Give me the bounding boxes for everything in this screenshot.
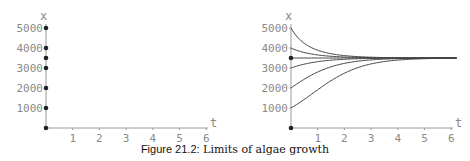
x-tick-label: 4000	[262, 42, 289, 55]
equilibrium-point	[289, 56, 294, 61]
solution-curve	[291, 58, 457, 88]
caption-label: Figure 21.2:	[141, 143, 200, 155]
t-axis-label: t	[210, 116, 217, 130]
solution-curve	[291, 58, 457, 108]
x-axis-label: x	[40, 9, 47, 23]
chart-solution-curves: 12345610002000300040005000tx	[262, 9, 463, 145]
initial-value-point	[44, 56, 49, 61]
x-axis-label: x	[285, 9, 292, 23]
initial-value-point	[44, 26, 49, 31]
x-tick-label: 4000	[17, 42, 44, 55]
x-tick-label: 3000	[17, 62, 44, 75]
equilibrium-point	[289, 126, 294, 131]
x-tick-label: 2000	[262, 82, 289, 95]
t-axis-label: t	[455, 116, 462, 130]
initial-value-point	[44, 46, 49, 51]
initial-value-point	[44, 106, 49, 111]
chart-initial-values: 12345610002000300040005000tx	[17, 9, 218, 145]
x-tick-label: 5000	[262, 22, 289, 35]
initial-value-point	[44, 66, 49, 71]
x-tick-label: 5000	[17, 22, 44, 35]
figure: 12345610002000300040005000tx 12345610002…	[0, 0, 470, 161]
initial-value-point	[44, 126, 49, 131]
x-tick-label: 1000	[262, 102, 289, 115]
x-tick-label: 3000	[262, 62, 289, 75]
initial-value-point	[44, 86, 49, 91]
x-tick-label: 1000	[17, 102, 44, 115]
solution-curve	[291, 28, 457, 58]
caption-text: Limits of algae growth	[200, 143, 330, 156]
x-tick-label: 2000	[17, 82, 44, 95]
figure-caption: Figure 21.2: Limits of algae growth	[0, 143, 470, 156]
